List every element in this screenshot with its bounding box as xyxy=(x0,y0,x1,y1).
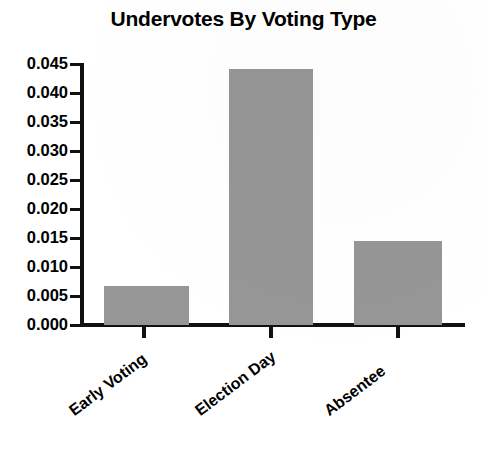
y-axis-tick xyxy=(70,295,81,298)
y-axis-tick-label-wrap: 0.030 xyxy=(6,142,68,159)
bar-election-day xyxy=(229,69,313,325)
y-axis-tick-label-wrap: 0.035 xyxy=(6,113,68,130)
y-axis-tick xyxy=(70,237,81,240)
x-axis-category-label: Absentee xyxy=(321,363,388,419)
y-axis-tick xyxy=(70,208,81,211)
x-axis-category-label: Early Voting xyxy=(66,351,149,419)
y-axis-tick xyxy=(70,92,81,95)
y-axis-tick-label: 0.035 xyxy=(6,113,68,130)
y-axis-tick xyxy=(70,324,81,327)
y-axis-tick-label: 0.005 xyxy=(6,287,68,304)
chart-title: Undervotes By Voting Type xyxy=(0,7,487,31)
y-axis-tick-label-wrap: 0.025 xyxy=(6,171,68,188)
y-axis-tick-label: 0.025 xyxy=(6,171,68,188)
bar-absentee xyxy=(354,241,442,325)
bar-early-voting xyxy=(104,286,189,325)
x-axis-tick xyxy=(142,327,146,338)
x-axis-tick xyxy=(269,327,273,338)
y-axis-tick xyxy=(70,121,81,124)
y-axis-tick-label-wrap: 0.005 xyxy=(6,287,68,304)
y-axis-tick xyxy=(70,63,81,66)
y-axis-tick xyxy=(70,150,81,153)
x-axis-category-label: Election Day xyxy=(192,348,278,419)
x-axis-tick xyxy=(396,327,400,338)
chart-figure: Undervotes By Voting Type 0.0450.0400.03… xyxy=(0,0,487,454)
y-axis-tick-label-wrap: 0.015 xyxy=(6,229,68,246)
y-axis-tick-label: 0.040 xyxy=(6,84,68,101)
y-axis-tick-label: 0.000 xyxy=(6,316,68,333)
y-axis-line xyxy=(80,63,84,327)
y-axis-tick-label-wrap: 0.020 xyxy=(6,200,68,217)
y-axis-tick-label-wrap: 0.045 xyxy=(6,55,68,72)
y-axis-tick-label: 0.020 xyxy=(6,200,68,217)
y-axis-tick-label-wrap: 0.040 xyxy=(6,84,68,101)
y-axis-tick-label-wrap: 0.000 xyxy=(6,316,68,333)
y-axis-tick xyxy=(70,179,81,182)
y-axis-tick-label: 0.010 xyxy=(6,258,68,275)
y-axis-tick-label-wrap: 0.010 xyxy=(6,258,68,275)
y-axis-tick-label: 0.045 xyxy=(6,55,68,72)
y-axis-tick xyxy=(70,266,81,269)
y-axis-tick-label: 0.015 xyxy=(6,229,68,246)
y-axis-tick-label: 0.030 xyxy=(6,142,68,159)
